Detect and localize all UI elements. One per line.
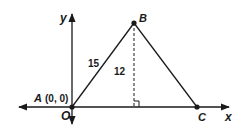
origin-label: O: [61, 109, 71, 123]
point-b-label: B: [139, 12, 147, 24]
side-ab-length: 15: [88, 58, 100, 69]
x-axis-label: x: [224, 110, 233, 124]
point-c: [194, 104, 199, 109]
point-b: [131, 20, 136, 25]
side-bc: [134, 23, 197, 107]
altitude-length: 12: [114, 66, 126, 77]
triangle-diagram: y x B C O A (0, 0) 15 12: [0, 0, 239, 131]
point-a-coords: (0, 0): [45, 93, 68, 104]
y-axis-label: y: [59, 11, 68, 25]
point-c-label: C: [198, 111, 207, 123]
side-ab: [72, 23, 134, 107]
point-a-label: A: [33, 92, 42, 104]
right-angle-mark: [134, 101, 139, 107]
